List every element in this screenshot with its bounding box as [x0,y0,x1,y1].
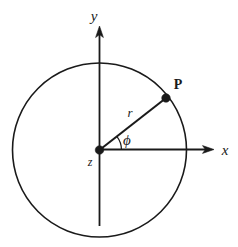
x-axis-label: x [221,142,229,158]
y-axis-label: y [89,8,98,24]
origin-z-label: z [87,155,93,169]
polar-coordinate-figure: y x P r ϕ z [0,0,238,247]
angle-arc [117,136,122,150]
angle-label: ϕ [123,132,131,148]
figure-canvas: y x P r ϕ z [0,0,238,247]
point-p-dot [162,94,171,103]
point-p-label: P [174,77,183,92]
radius-label: r [127,105,133,120]
radius-vector-line [100,98,167,150]
origin-dot [95,146,104,155]
